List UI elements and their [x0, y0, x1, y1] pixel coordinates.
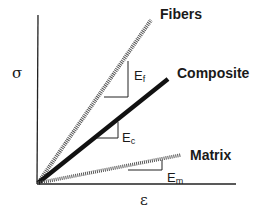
composite-modulus-label: Ec: [122, 131, 135, 146]
x-axis-label: ε: [140, 193, 148, 208]
matrix-label: Matrix: [190, 148, 231, 162]
composite-label: Composite: [177, 66, 249, 80]
fibers-modulus-label: Ef: [134, 69, 145, 84]
fibers-label: Fibers: [160, 7, 202, 21]
y-axis: [37, 15, 38, 184]
matrix-modulus-label: Em: [167, 171, 183, 186]
fibers-line: [38, 20, 151, 183]
fibers-slope-triangle: [104, 61, 128, 97]
stress-strain-diagram: [0, 0, 258, 213]
composite-line: [38, 79, 168, 183]
matrix-line: [38, 155, 181, 183]
y-axis-label: σ: [12, 66, 22, 81]
